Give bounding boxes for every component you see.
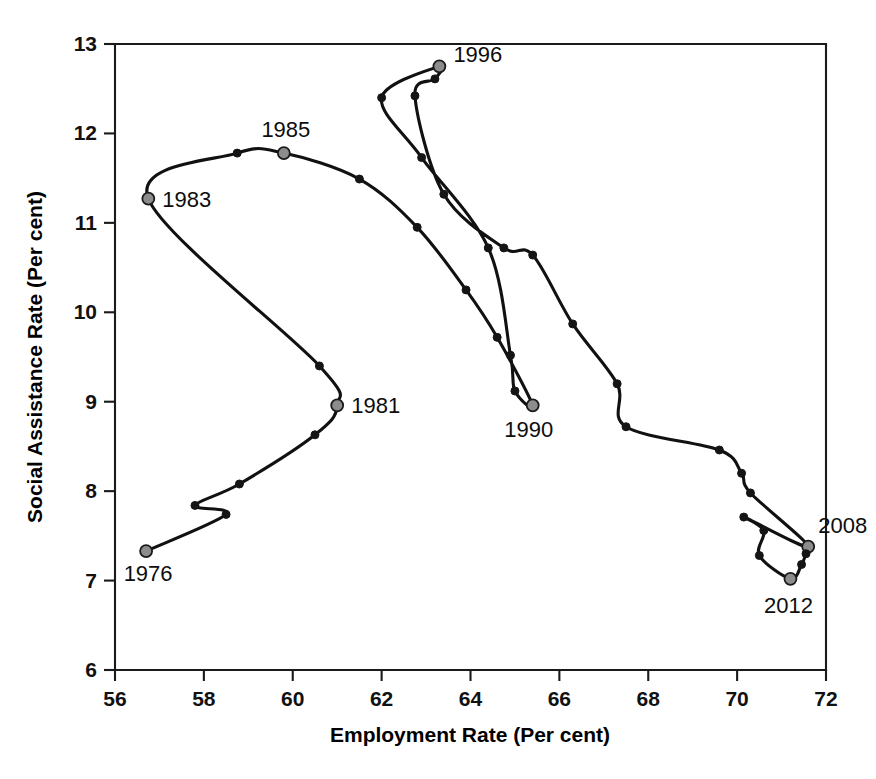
data-point-minor bbox=[715, 446, 723, 454]
x-axis-title: Employment Rate (Per cent) bbox=[330, 723, 610, 746]
year-label-1990: 1990 bbox=[504, 417, 553, 442]
data-point-minor bbox=[233, 149, 241, 157]
data-point-minor bbox=[315, 362, 323, 370]
y-tick-label: 7 bbox=[85, 569, 97, 592]
data-point-minor bbox=[418, 154, 426, 162]
data-point-minor bbox=[500, 244, 508, 252]
y-tick-label: 12 bbox=[74, 121, 97, 144]
data-point-major bbox=[784, 573, 796, 585]
data-point-minor bbox=[222, 510, 230, 518]
data-point-minor bbox=[740, 513, 748, 521]
data-point-minor bbox=[484, 244, 492, 252]
x-tick-label: 66 bbox=[548, 687, 571, 710]
data-point-major bbox=[527, 399, 539, 411]
data-point-major bbox=[142, 193, 154, 205]
data-point-major bbox=[433, 60, 445, 72]
data-point-minor bbox=[462, 286, 470, 294]
data-point-major bbox=[140, 545, 152, 557]
x-tick-label: 70 bbox=[725, 687, 748, 710]
data-point-minor bbox=[413, 223, 421, 231]
data-point-minor bbox=[440, 190, 448, 198]
data-point-minor bbox=[746, 489, 754, 497]
chart-container: 678910111213 565860626466687072 Employme… bbox=[0, 0, 876, 779]
data-point-major bbox=[331, 399, 343, 411]
y-tick-label: 8 bbox=[85, 479, 97, 502]
data-point-minor bbox=[191, 501, 199, 509]
year-label-1985: 1985 bbox=[261, 117, 310, 142]
data-point-minor bbox=[511, 387, 519, 395]
data-point-minor bbox=[755, 552, 763, 560]
data-point-minor bbox=[506, 351, 514, 359]
year-label-2008: 2008 bbox=[818, 513, 867, 538]
y-tick-label: 6 bbox=[85, 658, 97, 681]
data-point-minor bbox=[613, 380, 621, 388]
y-tick-label: 9 bbox=[85, 390, 97, 413]
data-point-minor bbox=[738, 469, 746, 477]
data-point-minor bbox=[493, 333, 501, 341]
data-point-major bbox=[278, 147, 290, 159]
y-tick-label: 13 bbox=[74, 32, 97, 55]
data-point-minor bbox=[798, 560, 806, 568]
scatter-line-chart: 678910111213 565860626466687072 Employme… bbox=[0, 0, 876, 779]
data-point-minor bbox=[411, 92, 419, 100]
x-tick-label: 64 bbox=[459, 687, 483, 710]
data-point-minor bbox=[529, 251, 537, 259]
data-point-minor bbox=[311, 431, 319, 439]
data-point-minor bbox=[378, 94, 386, 102]
year-label-1981: 1981 bbox=[351, 393, 400, 418]
y-tick-label: 11 bbox=[75, 211, 98, 234]
x-tick-label: 58 bbox=[192, 687, 216, 710]
data-point-minor bbox=[622, 423, 630, 431]
x-tick-label: 62 bbox=[370, 687, 393, 710]
data-point-minor bbox=[760, 526, 768, 534]
data-point-minor bbox=[431, 75, 439, 83]
data-point-minor bbox=[569, 320, 577, 328]
y-axis-title: Social Assistance Rate (Per cent) bbox=[23, 191, 46, 523]
data-point-minor bbox=[235, 480, 243, 488]
year-label-1983: 1983 bbox=[162, 187, 211, 212]
chart-background bbox=[0, 0, 876, 779]
x-tick-label: 60 bbox=[281, 687, 304, 710]
data-point-minor bbox=[802, 550, 810, 558]
year-label-1996: 1996 bbox=[453, 42, 502, 67]
x-tick-label: 68 bbox=[637, 687, 661, 710]
data-point-minor bbox=[355, 175, 363, 183]
x-tick-label: 72 bbox=[814, 687, 837, 710]
x-tick-label: 56 bbox=[103, 687, 126, 710]
year-label-2012: 2012 bbox=[764, 593, 813, 618]
year-label-1976: 1976 bbox=[124, 561, 173, 586]
y-tick-label: 10 bbox=[74, 300, 97, 323]
